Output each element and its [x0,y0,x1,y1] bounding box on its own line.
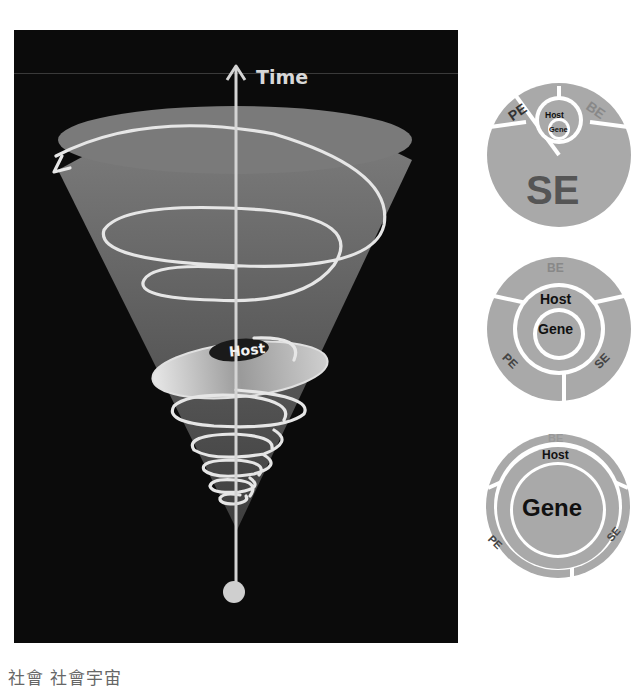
label-gene: Gene [538,321,573,337]
label-host: Host [540,291,571,307]
label-gene: Gene [549,125,568,134]
label-host: Host [545,110,564,120]
figure-caption: 社會 社會宇宙 [8,664,122,689]
label-be: BE [547,261,564,275]
disc-host-dominant: BE Host Gene PE SE [486,256,632,402]
disc-se-dominant: PE BE Host Gene SE [486,82,632,228]
label-be: BE [548,432,563,444]
cone-diagram-panel: Time Host [14,30,458,643]
label-se: SE [526,168,579,213]
disc-gene-dominant: BE Host Gene PE SE [484,432,632,580]
spiral-cone-graphic [14,30,458,643]
time-axis-label: Time [256,66,308,88]
label-host: Host [542,448,569,462]
label-gene: Gene [522,494,582,522]
origin-dot [223,581,245,603]
